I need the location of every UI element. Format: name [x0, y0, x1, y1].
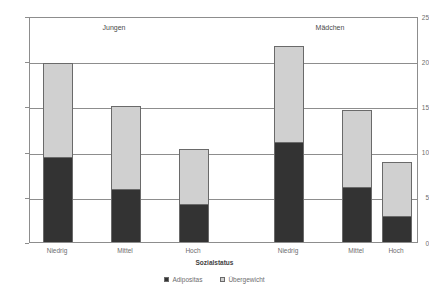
bar-segment-adipositas — [342, 188, 372, 242]
legend-swatch-icon — [164, 277, 169, 282]
gridline-20 — [30, 63, 417, 64]
bar-segment-uebergewicht — [382, 162, 412, 216]
chart-legend: AdipositasÜbergewicht — [0, 276, 429, 283]
bar-segment-adipositas — [179, 205, 209, 242]
x-tick-label-2: Hoch — [170, 247, 216, 255]
bar-segment-adipositas — [274, 143, 304, 242]
x-tick-label-5: Hoch — [373, 247, 419, 255]
bar-stack — [382, 162, 412, 242]
bar-segment-uebergewicht — [43, 63, 73, 158]
panel-title-jungen: Jungen — [74, 24, 154, 32]
bar-segment-adipositas — [43, 158, 73, 242]
bar-stack — [274, 46, 304, 242]
bar-stack — [43, 63, 73, 242]
plot-area — [29, 17, 418, 243]
x-tick-label-1: Mittel — [102, 247, 148, 255]
legend-label: Übergewicht — [228, 276, 264, 283]
chart-container: 2520151050 Jungen Mädchen NiedrigMittelH… — [0, 0, 429, 294]
y-tick-mark-0 — [25, 243, 29, 244]
bar-stack — [111, 106, 141, 242]
bar-segment-uebergewicht — [274, 46, 304, 144]
panel-title-maedchen: Mädchen — [290, 24, 370, 32]
x-tick-label-0: Niedrig — [34, 247, 80, 255]
bar-segment-uebergewicht — [111, 106, 141, 190]
legend-label: Adipositas — [172, 276, 202, 283]
bar-stack — [342, 110, 372, 242]
bar-segment-uebergewicht — [342, 110, 372, 188]
bar-stack — [179, 149, 209, 242]
x-axis-title: Sozialstatus — [0, 259, 429, 267]
bar-segment-adipositas — [111, 190, 141, 242]
legend-swatch-icon — [220, 277, 225, 282]
x-tick-label-3: Niedrig — [265, 247, 311, 255]
bar-segment-adipositas — [382, 217, 412, 242]
legend-item-uebergewicht[interactable]: Übergewicht — [220, 276, 264, 283]
bar-segment-uebergewicht — [179, 149, 209, 205]
legend-item-adipositas[interactable]: Adipositas — [164, 276, 202, 283]
